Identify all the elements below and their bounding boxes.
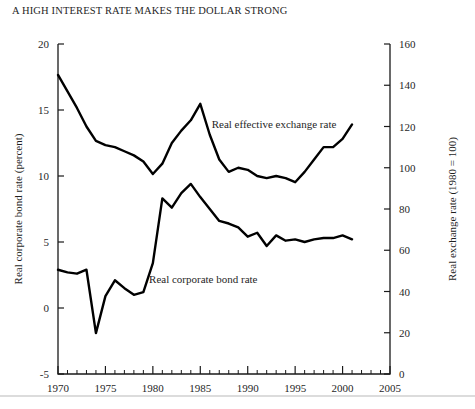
x-axis-tick-label: 1990 — [237, 382, 260, 394]
y2-axis-tick-label: 80 — [399, 203, 411, 215]
x-axis-tick-label: 1980 — [142, 382, 165, 394]
y-axis-tick-label: 15 — [38, 104, 50, 116]
y2-axis-title: Real exchange rate (1980 = 100) — [446, 137, 459, 281]
series-label-real-corporate-bond-rate: Real corporate bond rate — [149, 273, 258, 285]
x-axis-tick-label: 2000 — [332, 382, 355, 394]
axis-frame — [58, 44, 390, 374]
chart-plot-area: -505101520020406080100120140160197019751… — [0, 0, 475, 409]
data-series-group — [58, 75, 352, 333]
x-axis-tick-label: 1995 — [284, 382, 307, 394]
ticks-group — [58, 44, 390, 374]
y-axis-tick-label: 20 — [38, 38, 50, 50]
series-labels-group: Real effective exchange rateReal corpora… — [149, 118, 336, 285]
y2-axis-tick-label: 40 — [399, 286, 411, 298]
y2-axis-tick-label: 20 — [399, 327, 411, 339]
y-axis-title: Real corporate bond rate (percent) — [12, 133, 25, 284]
x-axis-tick-label: 1975 — [94, 382, 117, 394]
y2-axis-tick-label: 60 — [399, 244, 411, 256]
y2-axis-tick-label: 160 — [399, 38, 416, 50]
axis-titles-group: Real corporate bond rate (percent)Real e… — [12, 133, 459, 284]
y-axis-tick-label: 10 — [38, 170, 50, 182]
x-axis-tick-label: 1970 — [47, 382, 70, 394]
y2-axis-tick-label: 140 — [399, 79, 416, 91]
y-axis-tick-label: 0 — [44, 302, 50, 314]
tick-labels-group: -505101520020406080100120140160197019751… — [38, 38, 416, 394]
series-label-real-effective-exchange-rate: Real effective exchange rate — [212, 118, 337, 130]
y2-axis-tick-label: 120 — [399, 121, 416, 133]
data-line-real-corporate-bond-rate — [58, 184, 352, 333]
figure-container: A HIGH INTEREST RATE MAKES THE DOLLAR ST… — [0, 0, 475, 409]
y-axis-tick-label: 5 — [44, 236, 50, 248]
y2-axis-tick-label: 0 — [399, 368, 405, 380]
x-axis-tick-label: 2005 — [379, 382, 402, 394]
axes-group — [58, 44, 390, 374]
y2-axis-tick-label: 100 — [399, 162, 416, 174]
y-axis-tick-label: -5 — [40, 368, 50, 380]
x-axis-tick-label: 1985 — [189, 382, 212, 394]
